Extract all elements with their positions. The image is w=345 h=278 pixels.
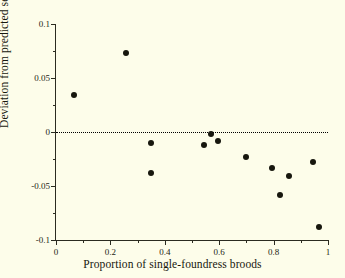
y-tick-label: 0.1 [20, 19, 50, 29]
y-tick-major [51, 186, 56, 187]
data-point [269, 165, 275, 171]
y-axis-title: Deviation from predicted sex ratio [0, 0, 10, 128]
x-tick-major [328, 240, 329, 245]
x-tick-label: 0.2 [105, 247, 116, 257]
data-point [316, 224, 322, 230]
data-point [71, 92, 77, 98]
x-tick-minor [83, 240, 84, 243]
data-point [277, 192, 283, 198]
y-tick-minor [53, 213, 56, 214]
x-tick-minor [138, 240, 139, 243]
x-tick-major [110, 240, 111, 245]
y-tick-label: -0.1 [20, 235, 50, 245]
y-tick-major [51, 24, 56, 25]
y-tick-major [51, 78, 56, 79]
y-tick-minor [53, 159, 56, 160]
zero-reference-line [56, 132, 328, 133]
x-tick-label: 1 [326, 247, 331, 257]
y-tick-minor [53, 51, 56, 52]
data-point [286, 173, 292, 179]
data-point [148, 140, 154, 146]
y-tick-major [51, 132, 56, 133]
x-tick-minor [246, 240, 247, 243]
data-point [310, 159, 316, 165]
data-point [201, 142, 207, 148]
y-tick-label: 0.05 [20, 73, 50, 83]
y-tick-label: -0.05 [20, 181, 50, 191]
scatter-plot-figure: -0.1-0.0500.050.1 00.20.40.60.81 Deviati… [0, 0, 345, 278]
y-tick-minor [53, 105, 56, 106]
x-tick-label: 0.8 [268, 247, 279, 257]
plot-area: -0.1-0.0500.050.1 00.20.40.60.81 [56, 24, 328, 240]
x-tick-major [219, 240, 220, 245]
data-point [243, 154, 249, 160]
x-tick-minor [301, 240, 302, 243]
x-tick-label: 0.4 [159, 247, 170, 257]
data-point [148, 170, 154, 176]
y-tick-label: 0 [20, 127, 50, 137]
x-tick-minor [192, 240, 193, 243]
x-tick-label: 0 [54, 247, 59, 257]
x-tick-label: 0.6 [214, 247, 225, 257]
data-point [208, 131, 214, 137]
x-tick-major [165, 240, 166, 245]
x-axis-title: Proportion of single-foundress broods [0, 258, 345, 270]
data-point [215, 138, 221, 144]
x-tick-major [56, 240, 57, 245]
x-tick-major [274, 240, 275, 245]
data-point [123, 50, 129, 56]
